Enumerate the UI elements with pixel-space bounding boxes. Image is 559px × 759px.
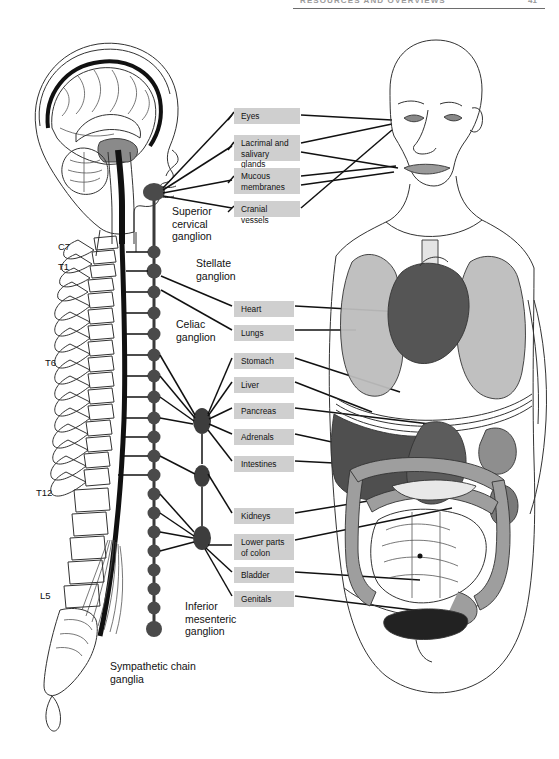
chip-stomach: Stomach bbox=[234, 353, 294, 369]
vertebral-column bbox=[44, 236, 125, 731]
chip-adrenals: Adrenals bbox=[234, 429, 294, 445]
stellate-ganglion-node bbox=[147, 264, 162, 279]
vertebral-label-l5: L5 bbox=[40, 590, 51, 601]
inferior-mesenteric-ganglion-node bbox=[193, 526, 211, 550]
chip-lacrimal-salivary-glands: Lacrimal and salivary glands bbox=[234, 135, 300, 161]
label-superior-cervical-ganglion: Superior cervical ganglion bbox=[172, 205, 212, 243]
vertebral-label-t6: T6 bbox=[45, 357, 56, 368]
chip-intestines: Intestines bbox=[234, 456, 294, 472]
sagittal-head-section bbox=[35, 43, 178, 256]
sympathetic-nervous-system-figure: RESOURCES AND OVERVIEWS 41 bbox=[0, 0, 559, 759]
vertebral-label-c7: C7 bbox=[58, 241, 70, 252]
abdominal-organs bbox=[331, 414, 518, 662]
chip-cranial-vessels: Cranial vessels bbox=[234, 201, 300, 217]
superior-mesenteric-ganglion-node bbox=[194, 465, 210, 487]
superior-cervical-ganglion-node bbox=[143, 183, 165, 201]
chip-liver: Liver bbox=[234, 377, 294, 393]
leader-lines-head bbox=[163, 112, 398, 212]
chip-heart: Heart bbox=[234, 301, 294, 317]
chip-kidneys: Kidneys bbox=[234, 508, 294, 524]
chip-mucous-membranes: Mucous membranes bbox=[234, 168, 300, 194]
vertebral-label-t1: T1 bbox=[58, 261, 69, 272]
label-sympathetic-chain-ganglia: Sympathetic chain ganglia bbox=[110, 660, 196, 685]
chip-genitals: Genitals bbox=[234, 591, 294, 607]
label-inferior-mesenteric-ganglion: Inferior mesenteric ganglion bbox=[185, 600, 236, 638]
chip-lungs: Lungs bbox=[234, 325, 294, 341]
thoracic-organs bbox=[336, 240, 532, 432]
label-stellate-ganglion: Stellate ganglion bbox=[196, 257, 236, 282]
chip-lower-parts-of-colon: Lower parts of colon bbox=[234, 534, 294, 560]
vertebral-label-t12: T12 bbox=[36, 487, 52, 498]
chip-pancreas: Pancreas bbox=[234, 403, 294, 419]
label-celiac-ganglion: Celiac ganglion bbox=[176, 318, 216, 343]
sympathetic-chain bbox=[118, 183, 211, 637]
chip-bladder: Bladder bbox=[234, 567, 294, 583]
chip-eyes: Eyes bbox=[234, 108, 300, 124]
